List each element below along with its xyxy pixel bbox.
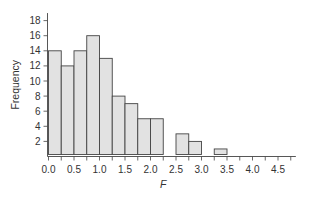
x-tick-label: 2.5 — [169, 164, 183, 175]
y-tick-label: 4 — [35, 121, 41, 132]
x-tick-label: 4.5 — [271, 164, 285, 175]
histogram-bar — [189, 141, 202, 154]
histogram-bar — [125, 104, 138, 155]
x-axis-label: F — [160, 178, 167, 190]
x-tick-label: 2.0 — [144, 164, 158, 175]
x-tick-label: 3.0 — [195, 164, 209, 175]
y-tick-label: 12 — [29, 60, 41, 71]
histogram-bar — [61, 66, 74, 155]
bars-group — [49, 36, 228, 155]
y-axis-label: Frequency — [9, 59, 21, 109]
histogram-bar — [49, 51, 62, 155]
histogram-bar — [112, 96, 125, 154]
y-tick-label: 6 — [35, 106, 41, 117]
y-tick-label: 2 — [35, 136, 41, 147]
histogram-bar — [74, 51, 87, 155]
y-tick-label: 18 — [29, 15, 41, 26]
histogram-bar — [87, 36, 100, 155]
x-tick-label: 0.5 — [67, 164, 81, 175]
y-tick-label: 8 — [35, 91, 41, 102]
x-ticks-group: 0.00.51.01.52.02.53.03.54.04.5 — [42, 157, 291, 175]
x-tick-label: 1.0 — [93, 164, 107, 175]
x-tick-label: 4.0 — [246, 164, 260, 175]
histogram-bar — [151, 119, 164, 155]
histogram-bar — [214, 149, 227, 155]
histogram-bar — [100, 58, 113, 154]
histogram-bar — [176, 134, 189, 155]
histogram-chart: 0.00.51.01.52.02.53.03.54.04.5 246810121… — [0, 0, 312, 197]
y-tick-label: 14 — [29, 45, 41, 56]
y-tick-label: 16 — [29, 30, 41, 41]
x-tick-label: 3.5 — [220, 164, 234, 175]
histogram-bar — [138, 119, 151, 155]
y-tick-label: 10 — [29, 76, 41, 87]
y-ticks-group: 24681012141618 — [29, 15, 47, 147]
x-tick-label: 0.0 — [42, 164, 56, 175]
x-tick-label: 1.5 — [118, 164, 132, 175]
